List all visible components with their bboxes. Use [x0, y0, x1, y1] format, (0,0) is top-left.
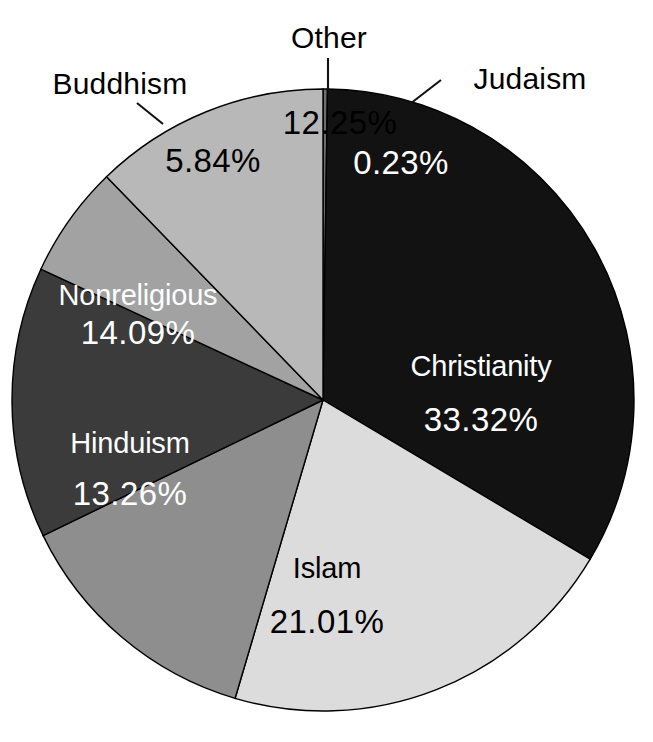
leader-line-judaism	[406, 80, 441, 107]
leader-line-buddhism	[137, 103, 163, 124]
pie-chart-canvas	[0, 0, 653, 742]
pie-chart: Judaism0.23%Christianity33.32%Islam21.01…	[0, 0, 653, 742]
pie-slices-group	[12, 89, 634, 711]
